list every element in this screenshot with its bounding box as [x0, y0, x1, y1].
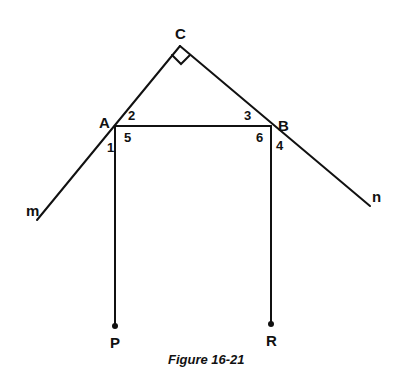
label-r: R: [266, 332, 277, 349]
label-c: C: [175, 25, 186, 42]
figure-caption: Figure 16-21: [168, 352, 245, 367]
line-m: [37, 46, 180, 220]
point-r-dot: [268, 321, 274, 327]
label-p: P: [110, 334, 120, 351]
label-n: n: [372, 188, 381, 205]
angle-6-label: 6: [256, 130, 263, 145]
label-b: B: [278, 117, 289, 134]
angle-3-label: 3: [244, 108, 251, 123]
right-angle-marker: [172, 55, 190, 64]
angle-4-label: 4: [276, 138, 284, 153]
angle-1-label: 1: [107, 140, 114, 155]
angle-2-label: 2: [128, 108, 135, 123]
point-p-dot: [112, 323, 118, 329]
label-m: m: [26, 202, 39, 219]
angle-5-label: 5: [124, 130, 131, 145]
label-a: A: [99, 114, 110, 131]
geometry-figure: C A B P R m n 1 2 3 4 5 6 Figure 16-21: [0, 0, 404, 384]
